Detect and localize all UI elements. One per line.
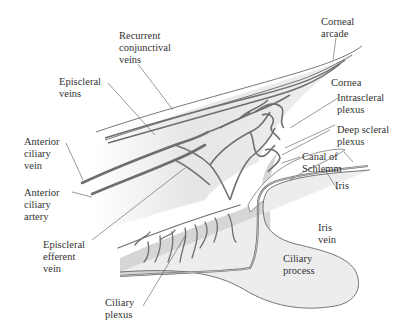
eye-vasculature-diagram bbox=[0, 0, 409, 333]
label-anterior-ciliary-vein: Anterior ciliary vein bbox=[24, 136, 60, 172]
label-canal-of-schlemm: Canal of Schlemm bbox=[302, 151, 342, 175]
label-episcleral-veins: Episcleral veins bbox=[59, 76, 101, 100]
label-anterior-ciliary-artery: Anterior ciliary artery bbox=[24, 187, 60, 223]
label-episcleral-efferent-vein: Episcleral efferent vein bbox=[43, 239, 85, 275]
label-ciliary-plexus: Ciliary plexus bbox=[105, 297, 134, 321]
label-recurrent-conjunctival-veins: Recurrent conjunctival veins bbox=[119, 30, 171, 66]
label-intrascleral-plexus: Intrascleral plexus bbox=[337, 92, 384, 116]
label-deep-scleral-plexus: Deep scleral plexus bbox=[337, 124, 389, 148]
label-ciliary-process: Ciliary process bbox=[283, 253, 315, 277]
label-corneal-arcade: Corneal arcade bbox=[321, 16, 354, 40]
label-iris-vein: Iris vein bbox=[318, 222, 336, 246]
label-iris: Iris bbox=[335, 180, 349, 192]
label-cornea: Cornea bbox=[331, 77, 361, 89]
